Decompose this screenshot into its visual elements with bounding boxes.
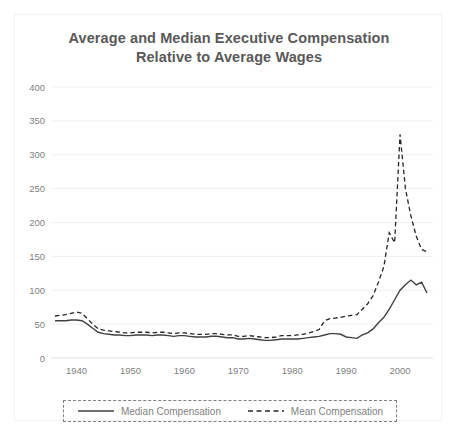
x-axis-tick-label: 1950: [120, 365, 141, 376]
legend-entry-median: Median Compensation: [77, 406, 221, 417]
plot-area: 050100150200250300350400 194019501960197…: [15, 15, 443, 422]
legend-swatch-dashed-icon: [247, 407, 285, 415]
y-axis-tick-label: 250: [29, 183, 45, 194]
legend-swatch-solid-icon: [77, 407, 115, 415]
y-axis-tick-label: 300: [29, 149, 45, 160]
x-axis-tick-label: 1960: [174, 365, 195, 376]
legend-label-median: Median Compensation: [121, 406, 221, 417]
y-axis-tick-label: 350: [29, 115, 45, 126]
y-axis-tick-label: 50: [34, 319, 45, 330]
line-chart: 050100150200250300350400 194019501960197…: [15, 15, 443, 422]
series-line-mean-compensation: [55, 134, 427, 337]
legend-label-mean: Mean Compensation: [291, 406, 383, 417]
x-axis-tick-label: 1970: [228, 365, 249, 376]
y-axis-tick-label: 400: [29, 82, 45, 93]
gridlines: [51, 87, 433, 358]
y-axis-tick-labels: 050100150200250300350400: [29, 82, 45, 364]
x-axis-tick-label: 1990: [336, 365, 357, 376]
y-axis-tick-label: 100: [29, 285, 45, 296]
chart-legend: Median Compensation Mean Compensation: [63, 400, 397, 422]
chart-card: Average and Median Executive Compensatio…: [14, 14, 442, 421]
y-axis-tick-label: 150: [29, 251, 45, 262]
legend-entry-mean: Mean Compensation: [247, 406, 383, 417]
y-axis-tick-label: 0: [40, 353, 45, 364]
x-axis-tick-labels: 1940195019601970198019902000: [66, 365, 411, 376]
y-axis-tick-label: 200: [29, 217, 45, 228]
x-axis-tick-label: 1940: [66, 365, 87, 376]
x-axis-tick-label: 2000: [389, 365, 410, 376]
x-axis-tick-label: 1980: [282, 365, 303, 376]
